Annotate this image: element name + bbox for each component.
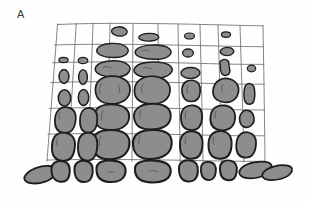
stone	[185, 33, 195, 39]
stone	[55, 107, 76, 133]
stone	[201, 162, 216, 180]
stone	[247, 65, 255, 72]
stone	[78, 133, 97, 161]
stone	[112, 27, 127, 36]
stone-row-basal-blocks	[52, 130, 256, 161]
stone	[58, 90, 70, 106]
stone-row-top-pebbles	[112, 27, 231, 41]
stone	[181, 105, 202, 130]
stone	[97, 43, 128, 57]
stone	[208, 131, 231, 159]
stone-row-large-blocks	[55, 104, 254, 133]
grid-v-line-10	[263, 26, 265, 163]
stone	[52, 133, 75, 161]
stone	[213, 78, 239, 102]
stone	[220, 160, 237, 180]
stone	[236, 132, 256, 157]
stone	[80, 108, 97, 133]
stone-row-medium-blocks	[58, 76, 254, 106]
stone	[94, 104, 129, 130]
stone	[220, 47, 234, 55]
stone	[179, 160, 198, 181]
stone	[220, 59, 230, 75]
stone	[139, 33, 159, 41]
stone	[181, 67, 200, 78]
stone	[93, 130, 130, 159]
stone	[79, 70, 88, 85]
stone	[183, 49, 194, 57]
stone	[95, 76, 130, 104]
stone	[210, 105, 235, 130]
stone-row-small-cobbles	[59, 43, 234, 63]
grid-h-line-0	[58, 23, 264, 25]
stone-courses	[24, 27, 292, 184]
stone	[51, 161, 69, 182]
stone	[59, 57, 68, 62]
stone	[244, 84, 255, 105]
stone	[135, 45, 171, 59]
stone	[135, 160, 171, 182]
stone	[78, 57, 88, 63]
stone	[78, 90, 88, 106]
stone	[240, 110, 254, 127]
stone	[180, 131, 203, 159]
stone	[59, 70, 69, 84]
stone	[133, 130, 172, 159]
figure-panel: A	[0, 0, 310, 202]
stone	[74, 161, 92, 182]
stone	[134, 76, 170, 104]
stone	[221, 32, 230, 38]
stone	[182, 80, 200, 101]
stone-row-foundation	[24, 160, 292, 183]
stone-wall-illustration	[0, 0, 310, 202]
stone	[95, 61, 130, 77]
